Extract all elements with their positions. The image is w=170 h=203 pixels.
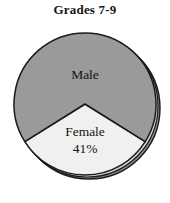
pie-chart-graphic: Male Female 41%: [0, 0, 170, 203]
pie-label-female: Female: [65, 124, 105, 139]
pie-chart-figure: Grades 7-9 Male Female 41%: [0, 0, 170, 203]
pie-label-male: Male: [71, 67, 99, 82]
pie-label-female-percent: 41%: [73, 141, 98, 156]
